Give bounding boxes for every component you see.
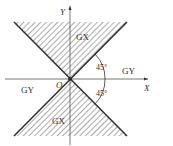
region-label-top: GX xyxy=(76,32,89,42)
origin-point xyxy=(68,77,72,81)
region-label-left: GY xyxy=(21,85,34,95)
angle-label-upper: 45° xyxy=(96,63,107,72)
angle-label-lower: 45° xyxy=(96,89,107,98)
region-label-right: GY xyxy=(122,66,135,76)
origin-label: O xyxy=(56,80,63,90)
region-label-bottom: GX xyxy=(52,116,65,126)
diagram-canvas: Y X O GX GX GY GY 45° 45° xyxy=(0,0,173,146)
y-axis-label: Y xyxy=(60,7,66,17)
x-axis-label: X xyxy=(143,83,150,93)
upper-shaded-region xyxy=(14,22,127,79)
